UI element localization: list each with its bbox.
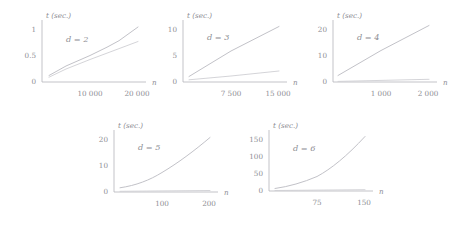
y-axis-title: t (sec.) [118, 121, 143, 130]
y-tick-label: 10 [318, 51, 328, 60]
y-tick-label: 0 [31, 77, 36, 86]
x-tick-label: 20 000 [124, 89, 150, 98]
y-tick-label: 10 [168, 25, 178, 34]
series-annotation: d = 6 [293, 143, 316, 153]
y-axis-title: t (sec.) [337, 11, 362, 20]
x-tick-label: 1 000 [371, 89, 392, 98]
x-tick-label: 2 000 [418, 89, 439, 98]
chart-svg-d4: t (sec.) 20 10 0 1 000 2 000 n d = 4 [313, 6, 453, 106]
x-tick-label: 7 500 [221, 89, 242, 98]
y-axis-title: t (sec.) [273, 121, 298, 130]
series-line-upper [120, 138, 210, 188]
series-line-upper [275, 137, 365, 189]
x-tick-label: 10 000 [77, 89, 103, 98]
chart-panel-d4: t (sec.) 20 10 0 1 000 2 000 n d = 4 [313, 6, 453, 106]
series-line-lower [49, 42, 138, 78]
y-tick-label: 0 [258, 186, 263, 195]
x-axis-title: n [224, 188, 229, 197]
series-annotation: d = 2 [66, 34, 89, 44]
y-axis-title: t (sec.) [187, 11, 212, 20]
y-tick-label: 150 [249, 135, 263, 144]
chart-svg-d6: t (sec.) 150 100 50 0 75 150 n d = 6 [245, 118, 390, 218]
x-axis-title: n [293, 78, 298, 87]
chart-panel-d6: t (sec.) 150 100 50 0 75 150 n d = 6 [245, 118, 390, 218]
chart-panel-d5: t (sec.) 20 10 0 100 200 n d = 5 [94, 118, 234, 218]
y-tick-label: 20 [318, 25, 328, 34]
x-tick-label: 150 [357, 198, 371, 207]
chart-panel-d3: t (sec.) 10 5 0 7 500 15 000 n d = 3 [163, 6, 303, 106]
x-tick-label: 200 [202, 199, 216, 208]
series-annotation: d = 3 [207, 32, 230, 42]
x-tick-label: 15 000 [265, 89, 291, 98]
series-line-lower [120, 191, 210, 192]
y-tick-label: 0 [172, 77, 177, 86]
x-axis-title: n [379, 187, 384, 196]
chart-svg-d3: t (sec.) 10 5 0 7 500 15 000 n d = 3 [163, 6, 303, 106]
x-axis-title: n [443, 78, 448, 87]
y-tick-label: 10 [99, 161, 109, 170]
series-line-lower [189, 71, 279, 80]
y-tick-label: 100 [249, 152, 263, 161]
series-line-upper [49, 27, 138, 76]
series-line-upper [189, 27, 279, 77]
series-line-lower [338, 79, 429, 81]
series-line-lower [275, 190, 365, 191]
chart-grid: t (sec.) 1 0.5 0 10 000 20 000 n d = 2 t… [0, 0, 466, 228]
series-annotation: d = 4 [357, 32, 380, 42]
chart-svg-d5: t (sec.) 20 10 0 100 200 n d = 5 [94, 118, 234, 218]
chart-panel-d2: t (sec.) 1 0.5 0 10 000 20 000 n d = 2 [22, 6, 162, 106]
y-tick-label: 5 [172, 51, 177, 60]
y-tick-label: 0 [322, 77, 327, 86]
series-line-upper [338, 26, 429, 76]
y-axis-title: t (sec.) [46, 11, 71, 20]
x-tick-label: 75 [312, 198, 322, 207]
x-tick-label: 100 [155, 199, 169, 208]
x-axis-title: n [152, 78, 157, 87]
chart-svg-d2: t (sec.) 1 0.5 0 10 000 20 000 n d = 2 [22, 6, 162, 106]
y-tick-label: 20 [99, 135, 109, 144]
y-tick-label: 50 [254, 169, 264, 178]
y-tick-label: 1 [31, 25, 36, 34]
y-tick-label: 0.5 [25, 51, 37, 60]
series-annotation: d = 5 [138, 142, 161, 152]
y-tick-label: 0 [103, 187, 108, 196]
